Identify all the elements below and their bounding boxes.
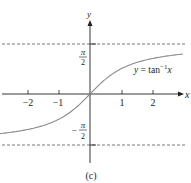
svg-text:π: π [81, 47, 86, 57]
x-axis-label: x [184, 89, 190, 100]
x-axis-arrow-icon [178, 92, 184, 97]
svg-text:−: − [71, 125, 76, 135]
y-axis-arrow-icon [88, 20, 93, 26]
figure-caption: (c) [85, 170, 96, 182]
svg-text:π: π [81, 120, 86, 130]
x-tick-label-2: 2 [151, 97, 156, 108]
x-tick-label-1: 1 [120, 97, 125, 108]
x-tick-label-m1: −1 [53, 97, 64, 108]
arctan-chart: x y −2 −1 1 2 π 2 − π 2 y = tan−1x (c) [0, 0, 191, 183]
y-label-neg-pi-over-2: − π 2 [71, 120, 87, 141]
y-axis-label: y [86, 9, 91, 19]
x-tick-label-m2: −2 [23, 97, 34, 108]
svg-text:2: 2 [81, 132, 85, 141]
y-label-pi-over-2: π 2 [79, 47, 87, 67]
function-label: y = tan−1x [133, 63, 172, 75]
svg-text:2: 2 [81, 58, 85, 67]
